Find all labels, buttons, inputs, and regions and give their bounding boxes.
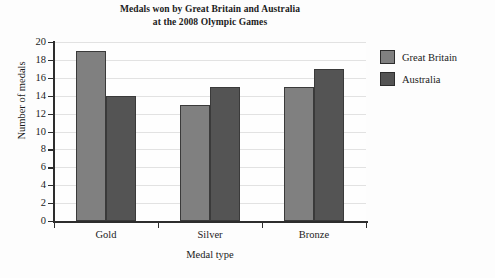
legend-label: Australia xyxy=(402,74,441,85)
y-axis-tick-label: 10 xyxy=(20,126,46,137)
y-axis-tick-label: 8 xyxy=(20,143,46,154)
legend-swatch-great-britain xyxy=(380,50,395,64)
gridline xyxy=(54,42,366,43)
y-axis-tick-label: 20 xyxy=(20,36,46,47)
x-axis-line xyxy=(53,221,368,223)
x-axis-category-bronze: Bronze xyxy=(269,229,359,240)
bar-bronze-australia xyxy=(314,69,344,221)
chart-legend: Great BritainAustralia xyxy=(380,46,457,90)
y-axis-tick xyxy=(48,132,54,133)
legend-item-australia[interactable]: Australia xyxy=(380,68,457,90)
x-axis-tick xyxy=(262,222,263,228)
y-axis-tick xyxy=(48,203,54,204)
y-axis-tick xyxy=(48,42,54,43)
y-axis-tick xyxy=(48,185,54,186)
bar-silver-great-britain xyxy=(180,105,210,221)
legend-label: Great Britain xyxy=(402,52,457,63)
legend-swatch-australia xyxy=(380,72,395,86)
y-axis-tick-label: 18 xyxy=(20,54,46,65)
y-axis-tick xyxy=(48,60,54,61)
y-axis-tick-label: 0 xyxy=(20,215,46,226)
y-axis-tick xyxy=(48,149,54,150)
y-axis-tick-label: 6 xyxy=(20,161,46,172)
y-axis-tick-label: 2 xyxy=(20,197,46,208)
bar-bronze-great-britain xyxy=(284,87,314,221)
x-axis-tick xyxy=(54,222,55,228)
y-axis-tick xyxy=(48,114,54,115)
y-axis-tick xyxy=(48,78,54,79)
y-axis-tick xyxy=(48,96,54,97)
bar-silver-australia xyxy=(210,87,240,221)
y-axis-tick-label: 12 xyxy=(20,108,46,119)
chart-title-line-1: Medals won by Great Britain and Australi… xyxy=(40,3,380,16)
y-axis-tick-label: 16 xyxy=(20,72,46,83)
y-axis-tick-label: 14 xyxy=(20,90,46,101)
bar-gold-great-britain xyxy=(76,51,106,221)
plot-area xyxy=(54,42,366,221)
chart-title: Medals won by Great Britain and Australi… xyxy=(40,3,380,29)
x-axis-category-gold: Gold xyxy=(61,229,151,240)
x-axis-tick xyxy=(158,222,159,228)
y-axis-tick-label: 4 xyxy=(20,179,46,190)
chart-figure: Medals won by Great Britain and Australi… xyxy=(0,0,495,278)
legend-item-great-britain[interactable]: Great Britain xyxy=(380,46,457,68)
bar-gold-australia xyxy=(106,96,136,221)
y-axis-tick xyxy=(48,167,54,168)
chart-title-line-2: at the 2008 Olympic Games xyxy=(40,16,380,29)
x-axis-label: Medal type xyxy=(54,249,366,260)
x-axis-category-silver: Silver xyxy=(165,229,255,240)
x-axis-tick xyxy=(366,222,367,228)
